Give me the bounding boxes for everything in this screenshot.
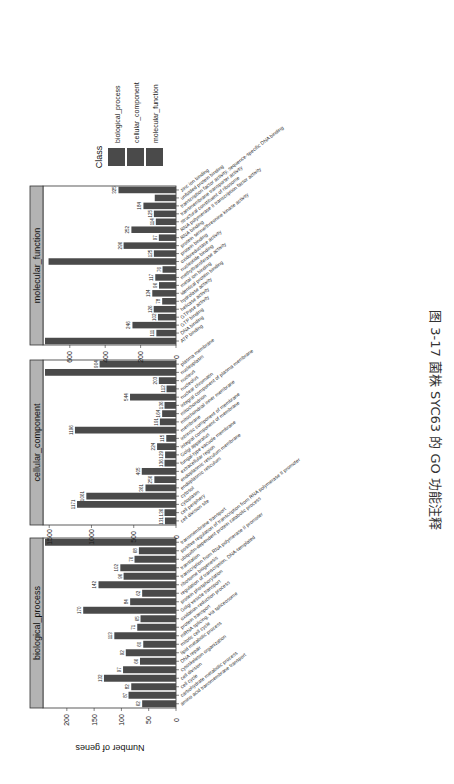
bar-value-label: 1061 bbox=[80, 491, 85, 502]
bar bbox=[162, 410, 176, 417]
bar-value-label: 125 bbox=[148, 210, 153, 218]
bar bbox=[130, 598, 176, 605]
value-tick-label: 1500 bbox=[46, 529, 53, 545]
bar-value-label: 184 bbox=[137, 202, 142, 210]
value-tick-label: 100 bbox=[118, 714, 125, 726]
bar-value-label: 62 bbox=[136, 701, 141, 707]
bar-value-label: 68 bbox=[133, 548, 138, 554]
bar-value-label: 71 bbox=[131, 624, 136, 630]
bar-value-label: 129 bbox=[159, 451, 164, 459]
value-tick-label: 0 bbox=[173, 718, 180, 722]
bar-value-label: 325 bbox=[112, 186, 117, 194]
bar-value-label: 96 bbox=[118, 573, 123, 579]
bar bbox=[158, 314, 176, 321]
go-annotation-chart: biological_process62amino acid transmemb… bbox=[0, 0, 454, 784]
bar bbox=[120, 564, 176, 571]
plot-area bbox=[43, 538, 176, 708]
bar bbox=[126, 649, 176, 656]
bar-value-label: 102 bbox=[114, 564, 119, 572]
bar bbox=[154, 306, 176, 313]
bar bbox=[142, 468, 176, 475]
bar-value-label: 113 bbox=[108, 632, 113, 640]
bar bbox=[154, 476, 176, 483]
bar bbox=[98, 581, 176, 588]
legend-entry-label: molecular_function bbox=[152, 84, 160, 143]
bar bbox=[45, 539, 176, 546]
bar-value-label: 136 bbox=[159, 401, 164, 409]
value-tick-label: 500 bbox=[130, 531, 137, 543]
bar bbox=[162, 298, 176, 305]
bar bbox=[155, 274, 176, 281]
bar-value-label: 97 bbox=[117, 667, 122, 673]
bar bbox=[159, 234, 176, 241]
figure-caption: 图 3-17 菌株 SYC63 的 GO 功能注释 bbox=[426, 300, 446, 540]
bar-value-label: 405 bbox=[136, 467, 141, 475]
bar-value-label: 256 bbox=[148, 475, 153, 483]
bar-value-label: 102 bbox=[152, 313, 157, 321]
value-tick-label: 1000 bbox=[88, 529, 95, 545]
bar-value-label: 203 bbox=[153, 376, 158, 384]
bar-value-label: 170 bbox=[77, 606, 82, 614]
bar-value-label: 1171 bbox=[71, 499, 76, 509]
bar-value-label: 65 bbox=[135, 616, 140, 622]
bar bbox=[155, 195, 176, 202]
bar-value-label: 117 bbox=[149, 273, 154, 281]
bar bbox=[77, 501, 176, 508]
bar bbox=[124, 573, 176, 580]
bar-value-label: 111 bbox=[150, 329, 155, 336]
bar-value-label: 361 bbox=[139, 484, 144, 492]
bar bbox=[165, 509, 176, 516]
legend-swatch bbox=[108, 148, 125, 166]
bar bbox=[104, 675, 176, 682]
bar-value-label: 125 bbox=[148, 249, 153, 257]
bar bbox=[143, 203, 176, 210]
facet-strip-label: cellular_component bbox=[32, 403, 42, 482]
bar-value-label: 904 bbox=[94, 360, 99, 368]
bar bbox=[160, 418, 176, 425]
bar bbox=[114, 632, 176, 639]
bar bbox=[45, 338, 176, 345]
bar-value-label: 112 bbox=[161, 385, 166, 393]
bar-value-label: 92 bbox=[120, 650, 125, 656]
bar-value-label: 296 bbox=[118, 241, 123, 249]
y-axis-title: Number of genes bbox=[75, 743, 145, 753]
value-tick-label: 400 bbox=[102, 351, 109, 363]
bar bbox=[159, 377, 176, 384]
legend-swatch bbox=[127, 148, 144, 166]
value-tick-label: 50 bbox=[145, 716, 152, 724]
bar bbox=[130, 394, 176, 401]
bar bbox=[124, 242, 176, 249]
bar bbox=[131, 683, 176, 690]
value-tick-label: 600 bbox=[66, 351, 73, 363]
bar bbox=[75, 427, 176, 434]
bar bbox=[135, 556, 176, 563]
bar bbox=[167, 385, 176, 392]
bar bbox=[118, 187, 176, 194]
bar bbox=[86, 493, 176, 500]
value-tick-label: 200 bbox=[137, 351, 144, 363]
bar bbox=[159, 282, 176, 289]
bar bbox=[157, 443, 176, 450]
value-tick-label: 0 bbox=[173, 535, 180, 539]
bar bbox=[152, 290, 176, 297]
bar bbox=[132, 322, 176, 329]
bar-value-label: 66 bbox=[134, 658, 139, 664]
bar-value-label: 76 bbox=[157, 266, 162, 272]
bar bbox=[131, 226, 176, 233]
legend-title: Class bbox=[94, 145, 104, 168]
facet-strip-label: biological_process bbox=[32, 585, 42, 660]
value-tick-label: 200 bbox=[63, 714, 70, 726]
bar-value-label: 60 bbox=[137, 641, 142, 647]
bar bbox=[83, 607, 176, 614]
bar-value-label: 114 bbox=[150, 218, 155, 226]
bar-value-label: 224 bbox=[151, 442, 156, 450]
bar-value-label: 1196 bbox=[69, 425, 74, 435]
bar bbox=[142, 590, 176, 597]
bar-value-label: 78 bbox=[156, 298, 161, 304]
bar bbox=[165, 402, 176, 409]
bar bbox=[45, 369, 176, 376]
bar-value-label: 131 bbox=[159, 517, 164, 525]
facet-strip-label: molecular_function bbox=[32, 228, 42, 304]
bar bbox=[49, 258, 176, 265]
bar-value-label: 126 bbox=[148, 305, 153, 313]
